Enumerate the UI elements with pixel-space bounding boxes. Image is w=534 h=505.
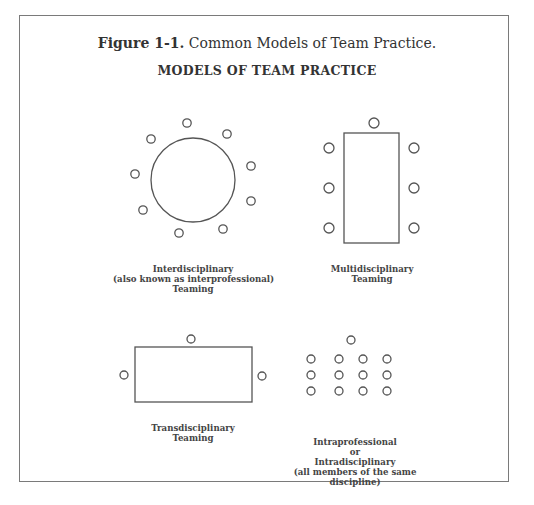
multidisciplinary-diagram [324,118,419,243]
multidisciplinary-label: Multidisciplinary Teaming [322,264,422,284]
interdisciplinary-diagram [131,119,255,237]
interdisciplinary-label: Interdisciplinary (also known as interpr… [113,264,273,294]
intraprofessional-diagram [307,336,391,395]
diagram-shapes [0,0,534,505]
intraprofessional-label: Intraprofessional or Intradisciplinary (… [290,437,420,487]
transdisciplinary-label: Transdisciplinary Teaming [143,423,243,443]
transdisciplinary-diagram [120,335,266,402]
